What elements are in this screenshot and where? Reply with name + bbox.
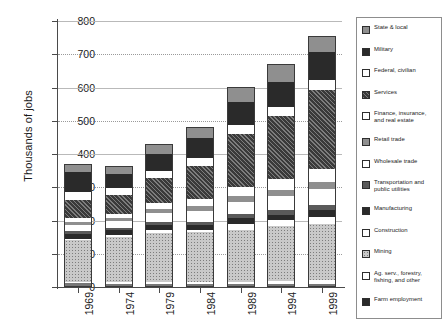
bar-segment	[105, 195, 133, 214]
x-tick-mark	[159, 288, 160, 293]
legend-label: Finance, insurance, and real estate	[374, 110, 437, 124]
legend-item-11[interactable]: Ag. serv., forestry, fishing, and other	[362, 270, 437, 284]
bar-segment	[105, 228, 133, 231]
bar-segment	[105, 166, 133, 175]
legend-label: Military	[374, 46, 393, 53]
x-tick-mark	[78, 288, 79, 293]
bar-segment	[267, 284, 295, 287]
bar-segment	[186, 166, 214, 199]
bar-segment	[145, 284, 173, 287]
bar-segment	[308, 205, 336, 210]
x-tick-label-1974: 1974	[124, 292, 136, 315]
bar-segment	[227, 187, 255, 196]
legend-label: Farm employment	[374, 296, 422, 303]
bar-segment	[105, 214, 133, 219]
bar-segment	[308, 189, 336, 205]
legend-item-6[interactable]: Wholesale trade	[362, 158, 437, 168]
bar-segment	[186, 211, 214, 222]
legend-item-12[interactable]: Farm employment	[362, 296, 437, 306]
bar-segment	[145, 144, 173, 154]
bar-segment	[105, 235, 133, 237]
bar-segment	[267, 190, 295, 196]
x-tick-label-1994: 1994	[286, 292, 298, 315]
x-tick-mark	[322, 288, 323, 293]
bar-segment	[227, 284, 255, 287]
bar-segment	[186, 199, 214, 206]
legend-swatch-icon	[362, 69, 370, 77]
x-tick-label-1969: 1969	[83, 292, 95, 315]
bar-segment	[267, 196, 295, 210]
x-axis-line	[57, 287, 345, 288]
bar-segment	[105, 188, 133, 195]
bar-segment	[267, 281, 295, 284]
bar-segment	[64, 225, 92, 232]
x-tick-label-1979: 1979	[164, 292, 176, 315]
legend-item-2[interactable]: Federal, civilian	[362, 67, 437, 77]
bar-segment	[105, 237, 133, 282]
bar-segment	[308, 80, 336, 89]
bar-segment	[145, 213, 173, 222]
legend-swatch-icon	[362, 138, 370, 146]
legend-swatch-icon	[362, 91, 370, 99]
x-tick-mark	[119, 288, 120, 293]
legend-label: Ag. serv., forestry, fishing, and other	[374, 270, 437, 284]
bar-segment	[186, 230, 214, 233]
bar-segment	[64, 164, 92, 172]
bar-segment	[105, 284, 133, 287]
bar-1969	[64, 21, 92, 287]
legend-item-3[interactable]: Services	[362, 89, 437, 99]
legend-item-7[interactable]: Transportation and public utilities	[362, 179, 437, 193]
x-tick-label-1999: 1999	[327, 292, 339, 315]
bar-segment	[186, 225, 214, 230]
bar-segment	[186, 282, 214, 284]
legend-label: Construction	[374, 227, 408, 234]
legend-item-0[interactable]: State & local	[362, 24, 437, 34]
bar-segment	[105, 230, 133, 235]
legend-item-1[interactable]: Military	[362, 46, 437, 56]
legend-item-10[interactable]: Mining	[362, 248, 437, 258]
legend-swatch-icon	[362, 26, 370, 34]
bar-segment	[145, 178, 173, 203]
bar-segment	[145, 225, 173, 230]
bar-segment	[105, 174, 133, 188]
bar-segment	[227, 125, 255, 134]
bar-segment	[105, 218, 133, 221]
bar-segment	[267, 215, 295, 221]
bar-segment	[64, 172, 92, 192]
x-tick-mark	[281, 288, 282, 293]
x-tick-mark	[241, 288, 242, 293]
bar-segment	[64, 200, 92, 218]
legend-box: State & localMilitaryFederal, civilianSe…	[356, 17, 442, 319]
bar-segment	[64, 231, 92, 234]
bar-segment	[64, 283, 92, 287]
bar-segment	[145, 154, 173, 171]
x-tick-label-1989: 1989	[246, 292, 258, 315]
bar-segment	[145, 233, 173, 282]
bar-segment	[145, 203, 173, 209]
legend-label: Transportation and public utilities	[374, 179, 437, 193]
bar-segment	[227, 218, 255, 223]
bar-segment	[64, 222, 92, 225]
bar-segment	[308, 217, 336, 224]
bar-segment	[267, 226, 295, 281]
bar-segment	[186, 138, 214, 157]
bar-segment	[267, 220, 295, 226]
legend-item-8[interactable]: Manufacturing	[362, 205, 437, 215]
legend-item-9[interactable]: Construction	[362, 227, 437, 237]
legend-item-5[interactable]: Retail trade	[362, 136, 437, 146]
bar-segment	[267, 179, 295, 190]
bar-1974	[105, 21, 133, 287]
bar-segment	[64, 239, 92, 241]
bar-segment	[186, 284, 214, 287]
bar-segment	[308, 224, 336, 281]
bar-segment	[308, 182, 336, 189]
bar-1984	[186, 21, 214, 287]
bar-segment	[308, 36, 336, 52]
bar-segment	[227, 230, 255, 282]
bar-segment	[227, 102, 255, 125]
bar-segment	[145, 209, 173, 213]
bar-segment	[308, 90, 336, 170]
legend-item-4[interactable]: Finance, insurance, and real estate	[362, 110, 437, 124]
x-tick-mark	[200, 288, 201, 293]
bar-segment	[186, 222, 214, 225]
